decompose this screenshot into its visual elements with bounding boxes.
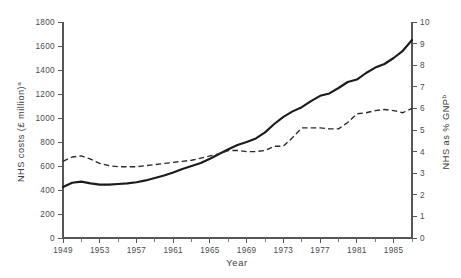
y2-tick-label: 8 xyxy=(420,61,425,70)
series-line-2 xyxy=(63,108,412,166)
y2-tick-label: 10 xyxy=(420,18,430,27)
x-tick-label: 1985 xyxy=(384,246,404,255)
y-tick-label: 200 xyxy=(40,210,55,219)
x-tick-label: 1981 xyxy=(347,246,367,255)
y2-tick-label: 5 xyxy=(420,126,425,135)
y-axis-left-ticks: 020040060080010001200140016001800 xyxy=(35,18,63,243)
y-tick-label: 0 xyxy=(50,234,55,243)
x-tick-label: 1977 xyxy=(310,246,330,255)
y-axis-left-title: NHS costs (£ million)a xyxy=(15,82,26,182)
axes xyxy=(63,22,412,238)
x-tick-label: 1961 xyxy=(163,246,183,255)
x-tick-label: 1953 xyxy=(90,246,110,255)
y2-tick-label: 9 xyxy=(420,40,425,49)
y-tick-label: 1200 xyxy=(35,90,55,99)
x-tick-label: 1969 xyxy=(237,246,257,255)
y-tick-label: 1000 xyxy=(35,114,55,123)
y2-tick-label: 3 xyxy=(420,169,425,178)
y-tick-label: 1800 xyxy=(35,18,55,27)
y-tick-label: 1600 xyxy=(35,42,55,51)
y2-tick-label: 7 xyxy=(420,83,425,92)
y-axis-right-ticks: 012345678910 xyxy=(412,18,430,243)
y2-tick-label: 1 xyxy=(420,212,425,221)
nhs-costs-chart: 020040060080010001200140016001800 012345… xyxy=(0,0,461,278)
y2-tick-label: 6 xyxy=(420,104,425,113)
y-tick-label: 1400 xyxy=(35,66,55,75)
y-tick-label: 800 xyxy=(40,138,55,147)
x-axis-title: Year xyxy=(226,257,247,268)
y-tick-label: 600 xyxy=(40,162,55,171)
x-tick-label: 1965 xyxy=(200,246,220,255)
y2-tick-label: 2 xyxy=(420,191,425,200)
chart-canvas: 020040060080010001200140016001800 012345… xyxy=(0,0,461,278)
y2-tick-label: 4 xyxy=(420,148,425,157)
x-tick-label: 1949 xyxy=(53,246,73,255)
data-series-group xyxy=(63,40,412,187)
x-tick-label: 1973 xyxy=(274,246,294,255)
y-tick-label: 400 xyxy=(40,186,55,195)
x-tick-label: 1957 xyxy=(127,246,147,255)
x-axis-ticks: 1949195319571961196519691973197719811985 xyxy=(53,238,412,255)
y2-tick-label: 0 xyxy=(420,234,425,243)
y-axis-right-title: NHS as % GNPb xyxy=(440,95,451,170)
